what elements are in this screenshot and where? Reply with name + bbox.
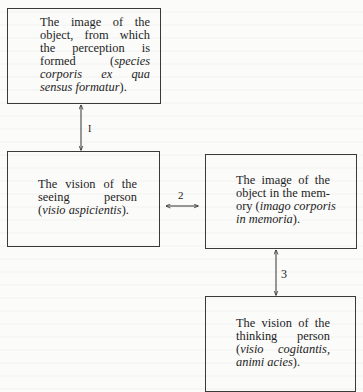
edge-1-label: I (88, 123, 91, 134)
edge-3-label: 3 (281, 268, 287, 280)
edge-2-label: 2 (178, 190, 184, 201)
